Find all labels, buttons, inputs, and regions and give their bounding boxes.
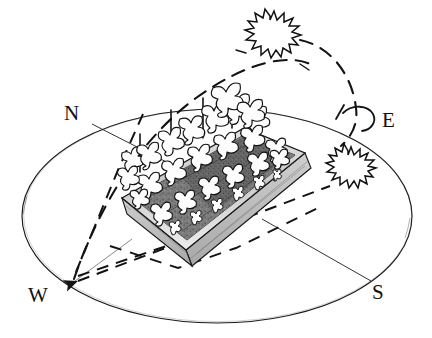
compass-label-east: E bbox=[382, 110, 395, 131]
compass-label-north: N bbox=[64, 103, 80, 124]
diagram-canvas bbox=[0, 0, 432, 338]
sun-path-garden-diagram: N E W S bbox=[0, 0, 432, 338]
compass-label-south: S bbox=[372, 282, 384, 303]
sun-low-afternoon bbox=[326, 144, 376, 188]
compass-label-west: W bbox=[28, 285, 48, 306]
